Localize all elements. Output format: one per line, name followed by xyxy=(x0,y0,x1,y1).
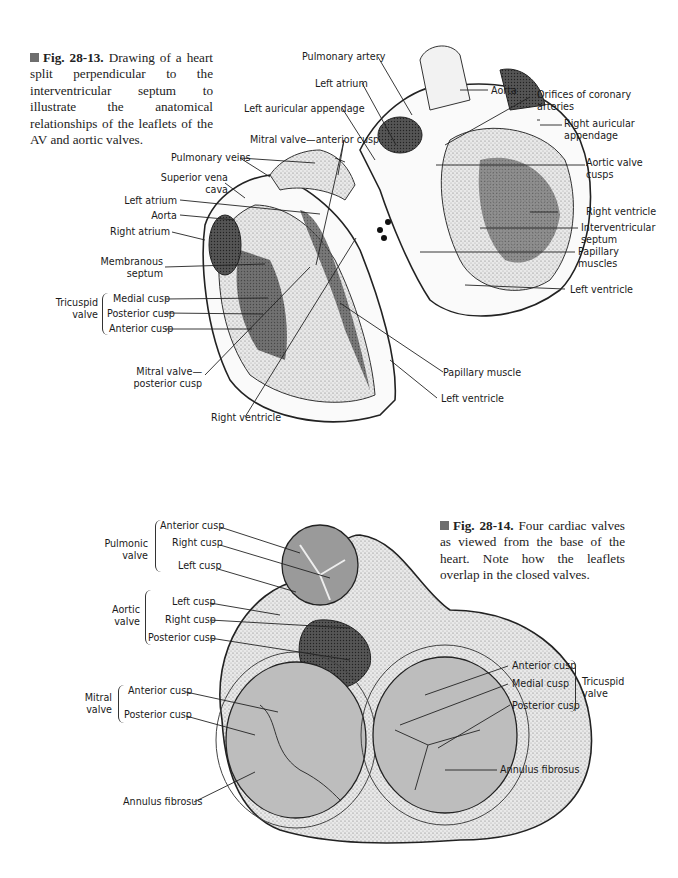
label-annulus-fibrosus-left: Annulus fibrosus xyxy=(123,796,202,808)
label-interventricular-septum: Interventricular septum xyxy=(581,222,671,245)
label-mitral-posterior-cusp: Mitral valve— posterior cusp xyxy=(130,366,202,389)
label-aortic-right-cusp: Right cusp xyxy=(165,614,216,626)
label-tri-anterior-cusp: Anterior cusp xyxy=(512,660,576,672)
label-pulm-anterior-cusp: Anterior cusp xyxy=(160,520,224,532)
label-right-auricular-appendage: Right auricular appendage xyxy=(564,118,654,141)
label-left-auricular-appendage: Left auricular appendage xyxy=(244,103,365,115)
label-annulus-fibrosus-right: Annulus fibrosus xyxy=(500,764,579,776)
label-medial-cusp: Medial cusp xyxy=(113,293,170,305)
caption-bullet-icon xyxy=(440,521,449,530)
label-papillary-muscle: Papillary muscle xyxy=(443,367,521,379)
label-aortic-valve: Aortic valve xyxy=(90,604,140,627)
label-mitral-valve: Mitral valve xyxy=(70,692,112,715)
label-tricuspid-valve: Tricuspid valve xyxy=(40,297,98,320)
label-aortic-posterior-cusp: Posterior cusp xyxy=(148,632,216,644)
label-orifices-coronary-arteries: Orifices of coronary arteries xyxy=(537,89,657,112)
label-posterior-cusp: Posterior cusp xyxy=(107,308,175,320)
label-mitral-anterior-cusp: Mitral valve—anterior cusp xyxy=(250,134,379,146)
label-right-ventricle-bottom: Right ventricle xyxy=(211,412,281,424)
label-mitral-anterior-cusp: Anterior cusp xyxy=(128,685,192,697)
tricuspid-brace-right xyxy=(570,660,576,712)
label-papillary-muscles: Papillary muscles xyxy=(578,246,638,269)
label-tricuspid-valve: Tricuspid valve xyxy=(582,676,632,699)
label-left-ventricle-right: Left ventricle xyxy=(570,284,633,296)
figure-number: Fig. 28-14. xyxy=(453,518,514,533)
label-left-atrium-top: Left atrium xyxy=(315,78,368,90)
label-pulmonic-valve: Pulmonic valve xyxy=(90,538,148,561)
label-membranous-septum: Membranous septum xyxy=(80,256,163,279)
label-aorta-top: Aorta xyxy=(491,85,517,97)
label-superior-vena-cava: Superior vena cava xyxy=(138,172,228,195)
label-tri-medial-cusp: Medial cusp xyxy=(512,678,569,690)
label-left-atrium: Left atrium xyxy=(100,195,177,207)
label-aortic-valve-cusps: Aortic valve cusps xyxy=(586,157,656,180)
label-right-ventricle: Right ventricle xyxy=(586,206,656,218)
label-pulmonary-artery: Pulmonary artery xyxy=(302,51,385,63)
label-aorta: Aorta xyxy=(100,210,177,222)
figure-28-14-caption: Fig. 28-14. Four cardiac valves as viewe… xyxy=(440,518,625,584)
label-pulmonary-veins: Pulmonary veins xyxy=(171,152,251,164)
label-pulm-right-cusp: Right cusp xyxy=(172,537,223,549)
label-right-atrium: Right atrium xyxy=(90,226,170,238)
label-mitral-posterior-cusp: Posterior cusp xyxy=(124,709,192,721)
label-pulm-left-cusp: Left cusp xyxy=(178,560,222,572)
label-aortic-left-cusp: Left cusp xyxy=(172,596,216,608)
label-left-ventricle-bottom: Left ventricle xyxy=(441,393,504,405)
label-anterior-cusp: Anterior cusp xyxy=(109,323,173,335)
